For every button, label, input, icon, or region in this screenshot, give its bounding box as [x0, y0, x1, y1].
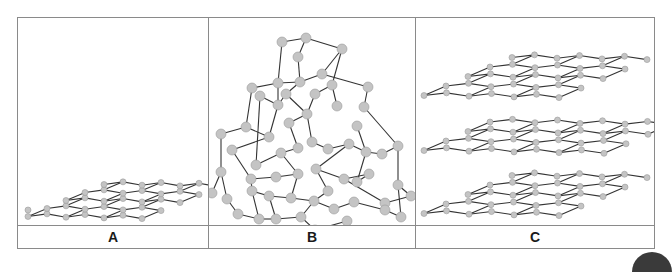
panel-a [18, 18, 208, 225]
graphene-sheet-diagram [18, 18, 208, 225]
graphite-layers-diagram [416, 18, 654, 225]
panel-label-c: C [416, 226, 654, 249]
panel-label-b: B [209, 226, 415, 249]
panel-c [416, 18, 654, 225]
allotrope-figure: A B C [17, 17, 655, 249]
diamond-lattice-diagram [209, 18, 415, 225]
corner-decoration [632, 252, 672, 272]
panel-b [209, 18, 415, 225]
panel-label-a: A [18, 226, 208, 249]
